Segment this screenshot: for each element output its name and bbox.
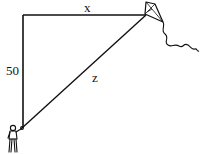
kite-triangle-diagram: x 50 z [0, 0, 201, 154]
hypotenuse-label: z [92, 71, 98, 84]
diagram-svg [0, 0, 201, 154]
horizontal-leg-label: x [84, 1, 91, 14]
vertical-leg-label: 50 [6, 64, 19, 77]
kite-tail [163, 22, 199, 51]
kite-icon [145, 2, 163, 22]
hypotenuse-string [22, 15, 146, 128]
person-icon [8, 125, 23, 152]
